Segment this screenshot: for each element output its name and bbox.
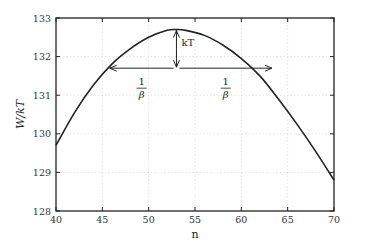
y-axis-label: W/kT [14, 98, 27, 129]
x-tick-label: 40 [50, 214, 62, 225]
y-tick-label: 128 [33, 206, 51, 217]
kt-label: kT [181, 37, 194, 48]
x-tick-label: 65 [282, 214, 294, 225]
fraction-numerator: 1 [138, 76, 144, 87]
x-axis-label: n [191, 228, 198, 241]
y-tick-labels: 128129130131132133 [33, 13, 51, 217]
x-tick-label: 50 [143, 214, 155, 225]
fraction-denominator: β [222, 89, 229, 100]
data-line [56, 29, 334, 180]
kt-arrow: kT [176, 31, 194, 68]
fraction-denominator: β [138, 89, 145, 100]
y-tick-label: 133 [33, 13, 51, 24]
x-tick-label: 55 [189, 214, 201, 225]
y-tick-label: 129 [33, 167, 51, 178]
y-tick-label: 132 [33, 51, 51, 62]
grid [56, 18, 334, 211]
y-tick-label: 131 [33, 90, 51, 101]
y-tick-label: 130 [33, 128, 51, 139]
chart: 40455055606570 128129130131132133 kT1β1β… [0, 0, 382, 251]
fraction-numerator: 1 [223, 76, 229, 87]
x-tick-label: 60 [235, 214, 247, 225]
x-tick-labels: 40455055606570 [50, 214, 340, 225]
x-tick-label: 70 [328, 214, 340, 225]
annotations: kT1β1β [110, 31, 272, 101]
x-tick-label: 45 [96, 214, 108, 225]
